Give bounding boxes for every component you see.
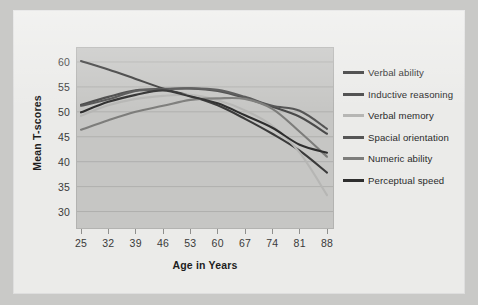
x-tick-label: 67	[232, 237, 258, 249]
x-tick-mark	[81, 229, 82, 234]
legend-swatch	[343, 71, 364, 74]
legend-item: Spacial orientation	[343, 127, 465, 149]
x-tick-label: 32	[95, 237, 121, 249]
y-tick-label: 45	[44, 131, 70, 143]
y-tick-label: 50	[44, 106, 70, 118]
plot-area	[76, 47, 334, 229]
x-tick-mark	[299, 229, 300, 234]
x-tick-label: 53	[177, 237, 203, 249]
x-tick-mark	[163, 229, 164, 234]
figure-card: 30354045505560 25323946536067748188 Age …	[13, 10, 465, 294]
x-tick-mark	[108, 229, 109, 234]
x-tick-label: 88	[314, 237, 340, 249]
plot-svg	[77, 48, 333, 228]
x-tick-mark	[135, 229, 136, 234]
x-tick-label: 25	[68, 237, 94, 249]
legend-item: Verbal memory	[343, 105, 465, 127]
y-tick-label: 55	[44, 81, 70, 93]
series-line	[81, 88, 327, 133]
legend-swatch	[343, 136, 364, 139]
x-tick-mark	[272, 229, 273, 234]
y-tick-label: 35	[44, 181, 70, 193]
legend-item: Numeric ability	[343, 148, 465, 170]
x-tick-label: 81	[287, 237, 313, 249]
legend-item: Verbal ability	[343, 62, 465, 84]
x-tick-label: 60	[205, 237, 231, 249]
x-tick-mark	[217, 229, 218, 234]
legend-label: Perceptual speed	[368, 175, 444, 186]
legend-label: Verbal memory	[368, 110, 434, 121]
x-tick-label: 39	[123, 237, 149, 249]
x-axis-title: Age in Years	[76, 259, 334, 271]
legend-label: Verbal ability	[368, 67, 424, 78]
legend-swatch	[343, 157, 364, 160]
y-tick-label: 30	[44, 206, 70, 218]
series-line	[81, 98, 327, 157]
legend-swatch	[343, 179, 364, 182]
legend-item: Perceptual speed	[343, 170, 465, 192]
y-axis-title: Mean T-scores	[31, 78, 43, 188]
page-background: 30354045505560 25323946536067748188 Age …	[0, 0, 478, 305]
legend-label: Spacial orientation	[368, 132, 449, 143]
legend-label: Inductive reasoning	[368, 89, 453, 100]
line-chart-figure: 30354045505560 25323946536067748188 Age …	[13, 10, 465, 294]
x-tick-mark	[190, 229, 191, 234]
x-tick-label: 46	[150, 237, 176, 249]
y-tick-label: 40	[44, 156, 70, 168]
x-tick-mark	[245, 229, 246, 234]
x-tick-mark	[327, 229, 328, 234]
legend-label: Numeric ability	[368, 153, 432, 164]
chart-legend: Verbal abilityInductive reasoningVerbal …	[343, 62, 465, 191]
legend-swatch	[343, 93, 364, 96]
x-tick-label: 74	[259, 237, 285, 249]
legend-swatch	[343, 114, 364, 117]
y-tick-label: 60	[44, 56, 70, 68]
legend-item: Inductive reasoning	[343, 84, 465, 106]
